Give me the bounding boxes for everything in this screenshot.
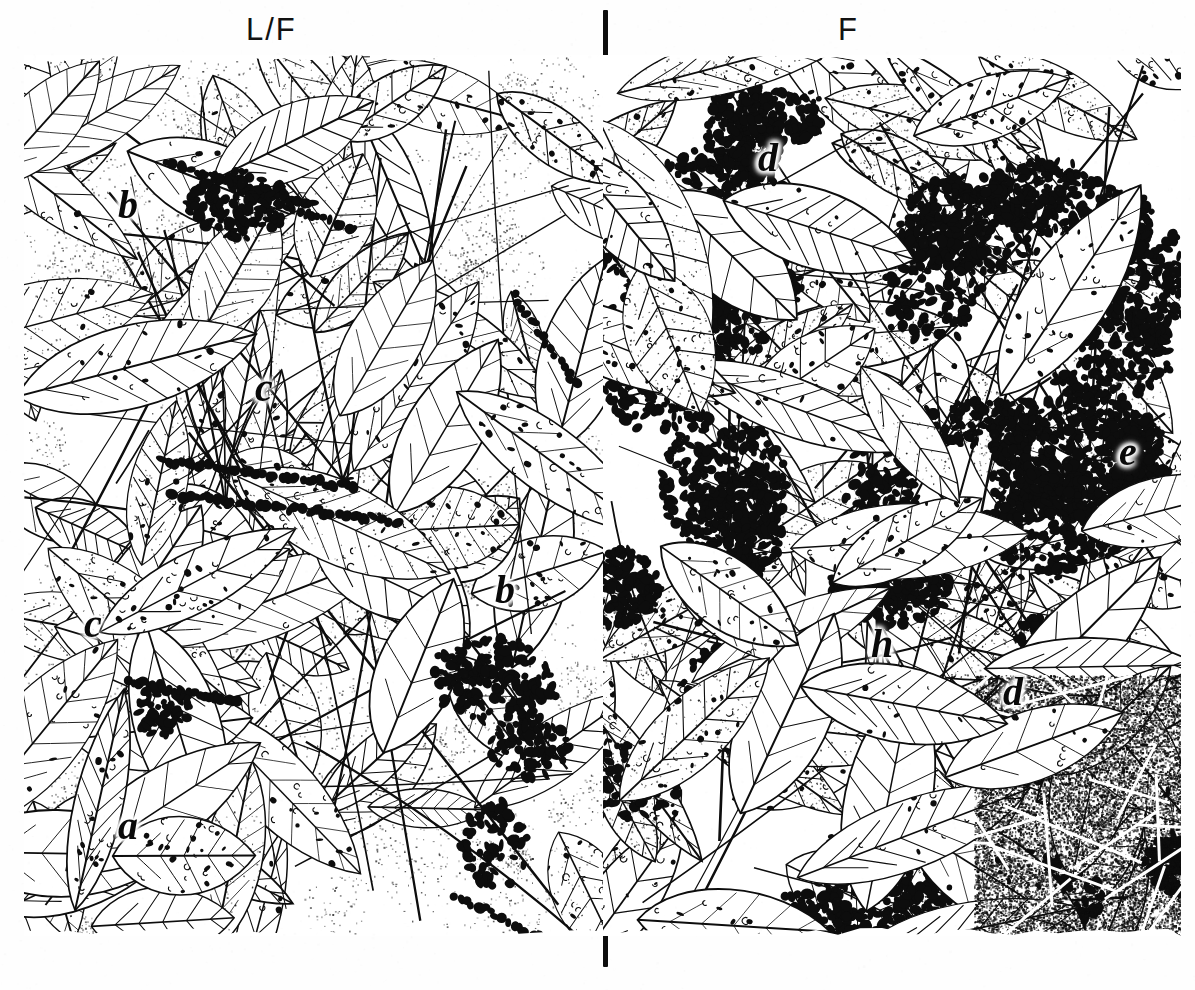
callout-letter-b-3: b: [495, 570, 515, 610]
zone-label-right: F: [838, 12, 859, 48]
divider-tick-bottom: [603, 934, 608, 967]
callout-letter-h-7: h: [871, 624, 893, 664]
callout-letter-c-2: c: [84, 604, 102, 644]
callout-letter-c-1: c: [255, 368, 273, 408]
callout-letter-a-4: a: [118, 806, 138, 846]
callout-letter-d-5: d: [758, 138, 778, 178]
callout-letter-b-0: b: [118, 185, 138, 225]
callout-letter-d-8: d: [1003, 672, 1023, 712]
zone-label-left: L/F: [246, 12, 297, 48]
illustration-frame: [24, 55, 1181, 936]
illustration-plate: L/F F bccbadehd: [0, 0, 1195, 990]
leaf-litter-artwork: [24, 55, 1181, 936]
divider-tick-top: [603, 10, 608, 56]
callout-letter-e-6: e: [1119, 432, 1137, 472]
